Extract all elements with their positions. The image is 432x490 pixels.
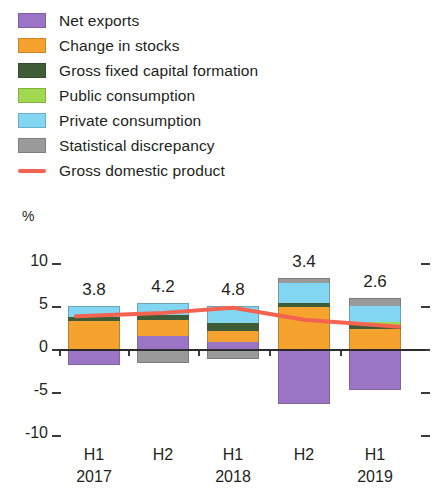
gdp-line-path xyxy=(76,308,399,327)
plot-area: 1050-5-103.8H120174.2H24.8H120183.4H22.6… xyxy=(0,0,432,490)
gdp-contributions-chart: Net exportsChange in stocksGross fixed c… xyxy=(0,0,432,490)
gdp-line-series xyxy=(0,0,432,490)
